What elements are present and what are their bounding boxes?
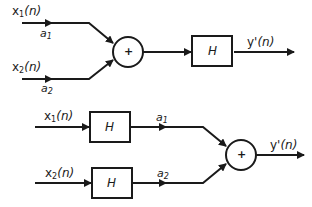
top-coef-1-label: a1	[40, 28, 52, 41]
top-output-label: y'(n)	[247, 36, 274, 48]
bottom-output-label: y'(n)	[270, 139, 297, 151]
top-input-2-label: x2(n)	[12, 61, 41, 75]
top-h-label: H	[208, 45, 217, 57]
top-input-1-label: x1(n)	[12, 5, 41, 19]
bottom-summer-plus: +	[237, 149, 246, 160]
top-input-1-wire	[22, 23, 113, 43]
bottom-branch-1-wire	[131, 127, 226, 146]
bottom-input-2-label: x2(n)	[45, 167, 74, 181]
top-summer-plus: +	[124, 46, 133, 57]
bottom-h-2-label: H	[107, 177, 116, 189]
bottom-input-1-label: x1(n)	[44, 110, 73, 124]
bottom-h-1-label: H	[105, 121, 114, 133]
bottom-branch-2-wire	[133, 164, 226, 183]
top-coef-2-label: a2	[41, 83, 53, 96]
bottom-coef-1-label: a1	[156, 112, 168, 125]
bottom-coef-2-label: a2	[157, 168, 169, 181]
